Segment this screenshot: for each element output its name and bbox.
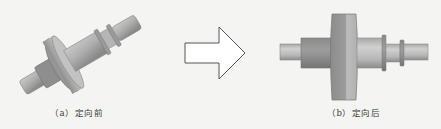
caption-before-orientation: （a）定向前	[50, 106, 103, 118]
caption-after-orientation: （b）定向后	[327, 106, 380, 118]
direction-arrow	[180, 25, 250, 80]
right-arrow-icon	[180, 25, 250, 80]
